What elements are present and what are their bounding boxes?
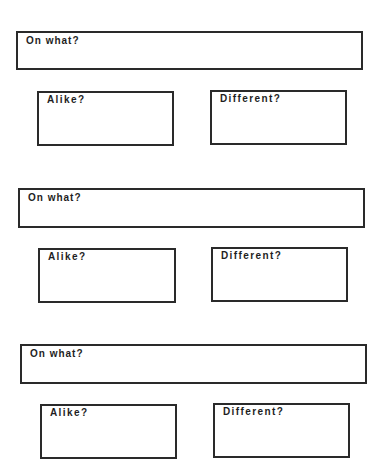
- alike-box-3[interactable]: Alike?: [40, 404, 177, 459]
- on-what-box-3[interactable]: On what?: [20, 344, 367, 384]
- on-what-label-3: On what?: [30, 349, 84, 359]
- alike-box-1[interactable]: Alike?: [37, 91, 174, 146]
- on-what-box-2[interactable]: On what?: [18, 188, 365, 228]
- different-box-2[interactable]: Different?: [211, 247, 348, 302]
- alike-label-3: Alike?: [50, 408, 88, 418]
- alike-label-1: Alike?: [47, 95, 85, 105]
- different-box-1[interactable]: Different?: [210, 90, 347, 145]
- alike-box-2[interactable]: Alike?: [38, 248, 176, 303]
- different-label-3: Different?: [223, 407, 284, 417]
- different-box-3[interactable]: Different?: [213, 403, 350, 458]
- different-label-2: Different?: [221, 251, 282, 261]
- on-what-label-2: On what?: [28, 193, 82, 203]
- on-what-label-1: On what?: [26, 36, 80, 46]
- on-what-box-1[interactable]: On what?: [16, 31, 363, 70]
- different-label-1: Different?: [220, 94, 281, 104]
- alike-label-2: Alike?: [48, 252, 86, 262]
